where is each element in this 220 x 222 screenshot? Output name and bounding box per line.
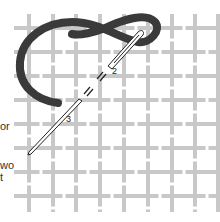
canvas-grid-horizontal [14, 28, 220, 196]
needlepoint-canvas-diagram: 2 3 [0, 0, 220, 222]
step-label-2: 2 [112, 66, 117, 76]
cropped-caption-fragment: wo [0, 160, 14, 171]
step-label-3: 3 [66, 114, 71, 124]
cropped-caption-fragment: or [0, 121, 10, 132]
cropped-caption-fragment: t [0, 172, 3, 183]
canvas-grid [29, 14, 218, 212]
thread [20, 17, 157, 103]
